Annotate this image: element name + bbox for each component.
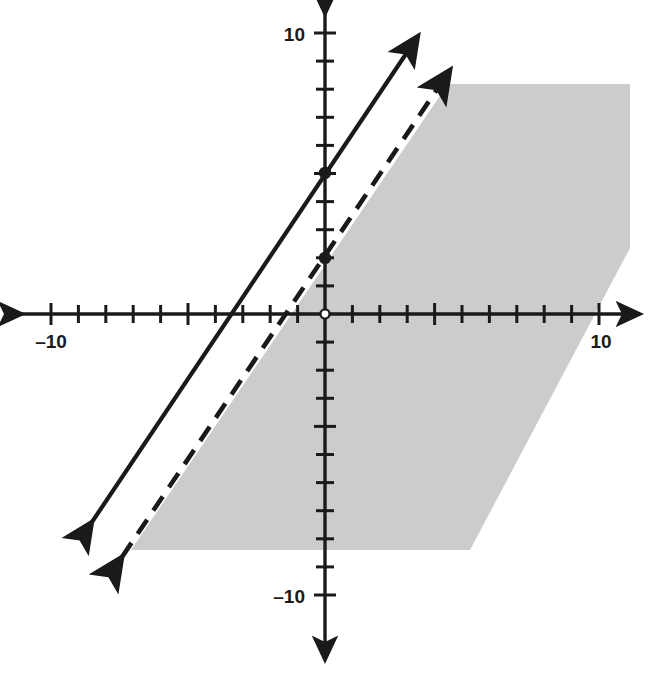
x-axis-max-label: 10 xyxy=(590,331,611,352)
x-axis-min-label: –10 xyxy=(35,331,67,352)
solid-line-y-intercept-point xyxy=(319,167,331,179)
dashed-line-y-intercept-point xyxy=(319,252,331,264)
y-axis-min-label: –10 xyxy=(273,586,305,607)
origin-marker xyxy=(320,309,329,318)
graph-canvas: –10 10 10 –10 xyxy=(0,0,658,674)
y-axis-max-label: 10 xyxy=(284,24,305,45)
coordinate-plane-figure: –10 10 10 –10 xyxy=(0,0,658,674)
